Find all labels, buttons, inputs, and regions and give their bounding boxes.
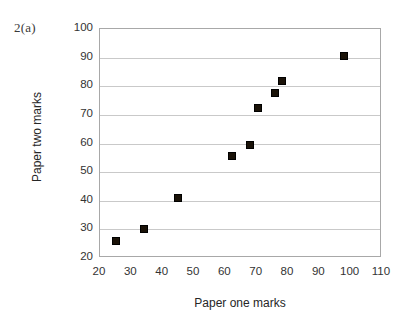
y-axis-title: Paper two marks <box>30 77 44 197</box>
x-tick-label: 110 <box>361 266 401 278</box>
x-axis-tick-labels: 2030405060708090100110 <box>0 0 412 325</box>
x-axis-title: Paper one marks <box>120 296 360 310</box>
scatter-plot-figure: 2(a) 2030405060708090100 203040506070809… <box>0 0 412 325</box>
